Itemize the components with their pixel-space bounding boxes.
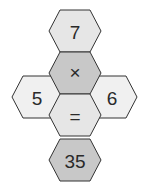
result-number: 35	[64, 151, 85, 172]
hex-result: 35	[49, 139, 101, 181]
hex-equals: =	[49, 94, 101, 136]
top-number: 7	[70, 22, 81, 43]
hexagon-puzzle: 5 6 7 × = 35	[0, 0, 144, 191]
hex-top: 7	[49, 10, 101, 52]
equals-sign: =	[69, 106, 80, 127]
hex-operator: ×	[49, 52, 101, 94]
right-number: 6	[107, 88, 118, 109]
multiply-sign: ×	[69, 62, 80, 83]
left-number: 5	[32, 88, 43, 109]
